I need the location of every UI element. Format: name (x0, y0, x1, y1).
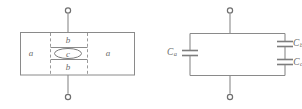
region-label-b-top: b (66, 36, 71, 45)
right-circuit-group (182, 8, 293, 100)
capacitor-label-c-a: Ca (167, 48, 177, 58)
circuit-bottom-terminal-dot (227, 94, 232, 99)
figure-root: a b c b a Ca Cb Cc (0, 0, 302, 109)
capacitor-subscript-c-b: b (299, 41, 302, 48)
circuit-top-terminal-dot (227, 8, 232, 13)
region-label-a-left: a (29, 49, 34, 58)
region-label-b-bottom: b (66, 63, 71, 72)
figure-canvas (0, 0, 302, 109)
capacitor-body-outline (21, 33, 135, 76)
region-label-c-center: c (66, 49, 70, 58)
capacitor-subscript-c-a: a (173, 50, 177, 57)
capacitor-label-c-b: Cb (293, 39, 302, 49)
left-bottom-terminal-dot (65, 94, 70, 99)
left-capacitor-group (21, 8, 135, 100)
capacitor-subscript-c-c: c (300, 60, 302, 67)
capacitor-label-c-c: Cc (293, 58, 302, 68)
left-top-terminal-dot (65, 8, 70, 13)
region-label-a-right: a (106, 49, 111, 58)
